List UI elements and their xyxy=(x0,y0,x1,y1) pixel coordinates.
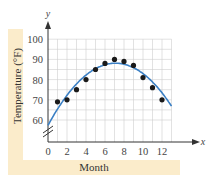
x-axis-letter: x xyxy=(200,136,206,147)
x-tick-label: 8 xyxy=(121,146,126,157)
data-point xyxy=(64,97,69,102)
y-tick-label: 70 xyxy=(33,95,44,106)
y-tick-label: 90 xyxy=(33,54,44,65)
y-tick-label: 80 xyxy=(33,75,44,86)
y-axis-arrow-icon xyxy=(45,21,51,29)
x-tick-label: 6 xyxy=(102,146,107,157)
data-point xyxy=(121,59,126,64)
data-point xyxy=(131,63,136,68)
y-axis-letter: y xyxy=(45,8,51,19)
x-tick-label: 0 xyxy=(45,146,50,157)
data-point xyxy=(140,75,145,80)
data-point xyxy=(55,99,60,104)
data-point xyxy=(159,97,164,102)
x-tick-label: 4 xyxy=(83,146,89,157)
x-tick-label: 2 xyxy=(64,146,69,157)
data-point xyxy=(83,77,88,82)
x-tick-label: 12 xyxy=(157,146,168,157)
data-point xyxy=(74,87,79,92)
x-axis-arrow-icon xyxy=(192,139,200,145)
data-point xyxy=(93,67,98,72)
data-point xyxy=(102,61,107,66)
data-point xyxy=(112,57,117,62)
chart-plot: 02468101260708090100xy xyxy=(0,0,207,184)
x-tick-label: 10 xyxy=(138,146,149,157)
model-curve xyxy=(48,63,172,125)
y-tick-label: 60 xyxy=(33,115,44,126)
data-point xyxy=(150,85,155,90)
y-tick-label: 100 xyxy=(27,34,43,45)
